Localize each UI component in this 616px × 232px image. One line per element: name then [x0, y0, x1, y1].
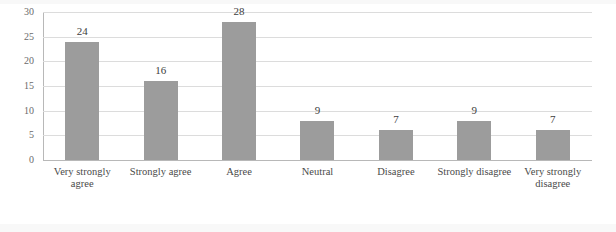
bar-series: 2416289797: [43, 12, 592, 160]
bar-slot: 24: [43, 12, 121, 160]
y-tick-label: 10: [0, 106, 34, 116]
bar[interactable]: [144, 81, 178, 160]
bar-value-label: 24: [43, 26, 121, 37]
bar-slot: 9: [278, 12, 356, 160]
bar-slot: 16: [121, 12, 199, 160]
bar-value-label: 7: [357, 114, 435, 125]
bar-value-label: 16: [121, 65, 199, 76]
category-label: Strongly agree: [121, 166, 199, 178]
bar-chart: 051015202530 2416289797 Very strongly ag…: [0, 0, 616, 232]
bar-slot: 9: [435, 12, 513, 160]
y-axis-tick-labels: 051015202530: [0, 0, 40, 232]
bar[interactable]: [222, 22, 256, 160]
category-label: Very strongly disagree: [514, 166, 592, 190]
bar-slot: 7: [357, 12, 435, 160]
y-tick-label: 5: [0, 130, 34, 140]
category-label: Neutral: [278, 166, 356, 178]
bar[interactable]: [300, 121, 334, 160]
scan-artifact-bottom: [0, 224, 616, 232]
y-tick-label: 0: [0, 155, 34, 165]
bar-slot: 28: [200, 12, 278, 160]
bar-value-label: 9: [278, 105, 356, 116]
y-tick-label: 30: [0, 7, 34, 17]
y-tick-label: 15: [0, 81, 34, 91]
bar-slot: 7: [514, 12, 592, 160]
x-axis-category-labels: Very strongly agreeStrongly agreeAgreeNe…: [43, 166, 592, 224]
category-label: Strongly disagree: [435, 166, 513, 178]
x-axis-line: [43, 160, 592, 161]
y-tick-label: 20: [0, 56, 34, 66]
y-tick-label: 25: [0, 32, 34, 42]
category-label: Agree: [200, 166, 278, 178]
bar-value-label: 9: [435, 105, 513, 116]
bar[interactable]: [536, 130, 570, 160]
scan-artifact-top: [0, 0, 616, 4]
bar-value-label: 28: [200, 6, 278, 17]
category-label: Very strongly agree: [43, 166, 121, 190]
bar[interactable]: [65, 42, 99, 160]
bar[interactable]: [457, 121, 491, 160]
category-label: Disagree: [357, 166, 435, 178]
bar-value-label: 7: [514, 114, 592, 125]
bar[interactable]: [379, 130, 413, 160]
